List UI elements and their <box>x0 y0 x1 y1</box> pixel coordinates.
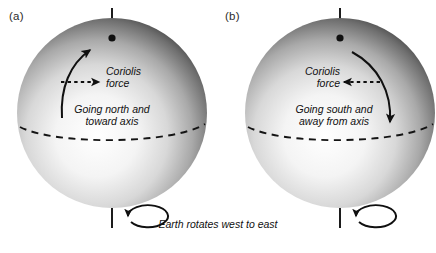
coriolis-force-label-b-line1: Coriolis <box>284 66 340 78</box>
coriolis-force-label-a: Coriolis force <box>106 66 141 90</box>
motion-label-b-line1: Going south and <box>276 104 392 116</box>
figure-caption: Earth rotates west to east <box>118 218 318 230</box>
motion-label-b-line2: away from axis <box>276 116 392 128</box>
motion-label-a-line2: toward axis <box>56 116 168 128</box>
coriolis-force-label-a-line1: Coriolis <box>106 66 141 78</box>
coriolis-force-label-b-line2: force <box>284 78 340 90</box>
coriolis-force-label-b: Coriolis force <box>284 66 340 90</box>
coriolis-force-label-a-line2: force <box>106 78 141 90</box>
north-pole-dot-a <box>108 34 115 41</box>
coriolis-force-figure: (a) (b) Coriolis force Going north and t… <box>0 0 436 253</box>
rotation-loop-b <box>356 205 396 227</box>
motion-label-b: Going south and away from axis <box>276 104 392 128</box>
panel-label-a: (a) <box>9 10 24 22</box>
motion-label-a-line1: Going north and <box>56 104 168 116</box>
north-pole-dot-b <box>336 34 343 41</box>
motion-label-a: Going north and toward axis <box>56 104 168 128</box>
panel-label-b: (b) <box>225 10 240 22</box>
